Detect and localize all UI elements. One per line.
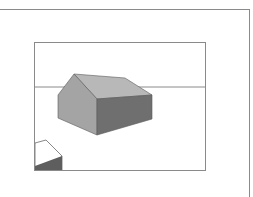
model-viewport (34, 42, 206, 171)
house-scene (35, 43, 206, 171)
house-side-wall (97, 95, 152, 135)
outer-frame-right-border (249, 9, 250, 197)
outer-frame-top-border (0, 9, 250, 10)
